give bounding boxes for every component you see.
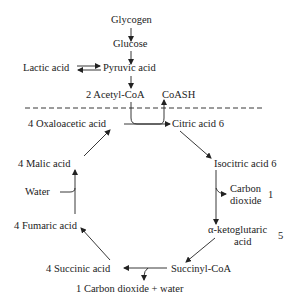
node-co2-water: 1 Carbon dioxide + water [76, 283, 183, 295]
node-oxaloacetic-acid: 4 Oxaloacetic acid [28, 118, 106, 130]
carbon-dioxide-count: 1 [268, 189, 273, 201]
node-ketoglutaric-line2: acid [234, 236, 252, 248]
node-isocitric-acid: Isocitric acid 6 [214, 158, 276, 170]
node-acetyl-coa: 2 Acetyl-CoA [86, 89, 145, 101]
arrow-ketoglutaric-succinyl [186, 238, 215, 262]
arrow-malic-oxaloacetic [84, 130, 110, 156]
node-citric-acid: Citric acid 6 [172, 118, 224, 130]
pathway-arrows [0, 0, 295, 308]
node-glucose: Glucose [113, 38, 147, 50]
node-lactic-acid: Lactic acid [23, 62, 69, 74]
node-pyruvic-acid: Pyruvic acid [103, 62, 156, 74]
arrow-citric-isocitric [180, 131, 211, 158]
node-fumaric-acid: 4 Fumaric acid [14, 220, 77, 232]
node-water: Water [25, 186, 50, 198]
line-water-join [60, 188, 75, 192]
node-coash: CoASH [162, 89, 195, 101]
node-succinyl-coa: Succinyl-CoA [171, 263, 231, 275]
node-succinic-acid: 4 Succinic acid [46, 263, 110, 275]
node-carbon-dioxide-line2: dioxide [230, 195, 262, 207]
arrow-citric-coash [131, 100, 164, 124]
ketoglutaric-count: 5 [278, 230, 283, 242]
node-glycogen: Glycogen [111, 14, 152, 26]
node-ketoglutaric-line1: α-ketoglutaric [208, 224, 267, 236]
node-malic-acid: 4 Malic acid [18, 158, 70, 170]
arrow-succinic-fumaric [81, 228, 110, 260]
node-carbon-dioxide-line1: Carbon [230, 183, 261, 195]
arrow-isocitric-co2 [216, 188, 226, 194]
arrow-co2-water [144, 268, 148, 280]
